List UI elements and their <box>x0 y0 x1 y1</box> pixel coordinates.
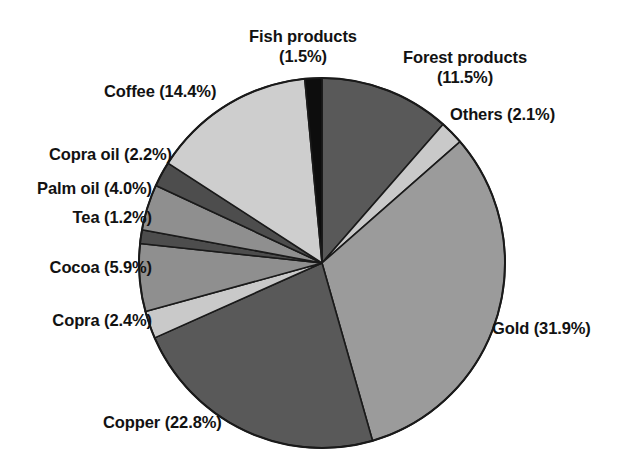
slice-label-tea: Tea (1.2%) <box>0 207 152 227</box>
slice-label-coffee: Coffee (14.4%) <box>104 81 294 101</box>
slice-label-gold: Gold (31.9%) <box>492 318 618 338</box>
slice-label-forest-products: Forest products (11.5%) <box>370 47 560 87</box>
slice-label-palm-oil: Palm oil (4.0%) <box>0 178 152 198</box>
slice-label-copra-oil: Copra oil (2.2%) <box>0 144 172 164</box>
slice-label-copper: Copper (22.8%) <box>103 412 283 432</box>
pie-chart: Fish products (1.5%) Forest products (11… <box>0 0 618 476</box>
slice-label-cocoa: Cocoa (5.9%) <box>0 257 152 277</box>
pie-slice-group <box>139 78 505 448</box>
slice-label-copra: Copra (2.4%) <box>0 310 152 330</box>
slice-label-others: Others (2.1%) <box>450 104 618 124</box>
slice-label-fish-products: Fish products (1.5%) <box>213 26 393 66</box>
